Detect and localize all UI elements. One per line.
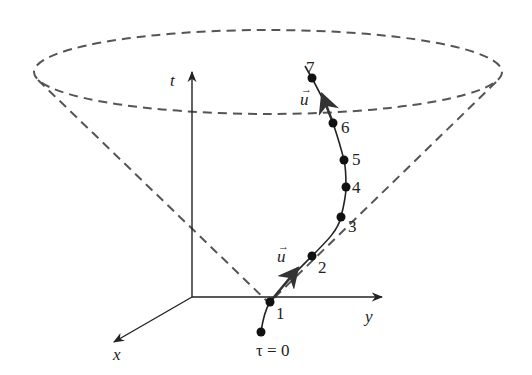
- point-label-5: 5: [352, 150, 361, 169]
- cone-right-edge: [272, 82, 496, 300]
- event-point-3: [337, 213, 346, 222]
- event-point-0: [257, 328, 266, 337]
- u-vector-upper: [322, 94, 333, 123]
- point-label-2: 2: [318, 258, 327, 277]
- event-point-6: [329, 119, 338, 128]
- point-label-1: 1: [276, 304, 285, 323]
- event-point-4: [342, 183, 351, 192]
- u-arrow-upper: →: [301, 83, 312, 95]
- x-axis-label: x: [112, 345, 121, 364]
- t-axis-label: t: [170, 71, 176, 90]
- light-cone: [34, 30, 502, 302]
- point-label-6: 6: [341, 118, 350, 137]
- cone-ellipse: [34, 30, 502, 114]
- point-label-7: 7: [306, 58, 315, 77]
- x-axis: [114, 297, 192, 342]
- spacetime-diagram: t y x 1 2 3 4 5 6 7 u → u → τ = 0: [0, 0, 532, 375]
- event-point-5: [340, 156, 349, 165]
- y-axis-label: y: [363, 307, 373, 326]
- u-arrow-lower: →: [278, 240, 289, 252]
- point-label-4: 4: [352, 178, 361, 197]
- event-point-2: [308, 252, 317, 261]
- point-label-3: 3: [348, 217, 357, 236]
- event-point-1: [266, 298, 275, 307]
- tau-zero-label: τ = 0: [256, 341, 289, 360]
